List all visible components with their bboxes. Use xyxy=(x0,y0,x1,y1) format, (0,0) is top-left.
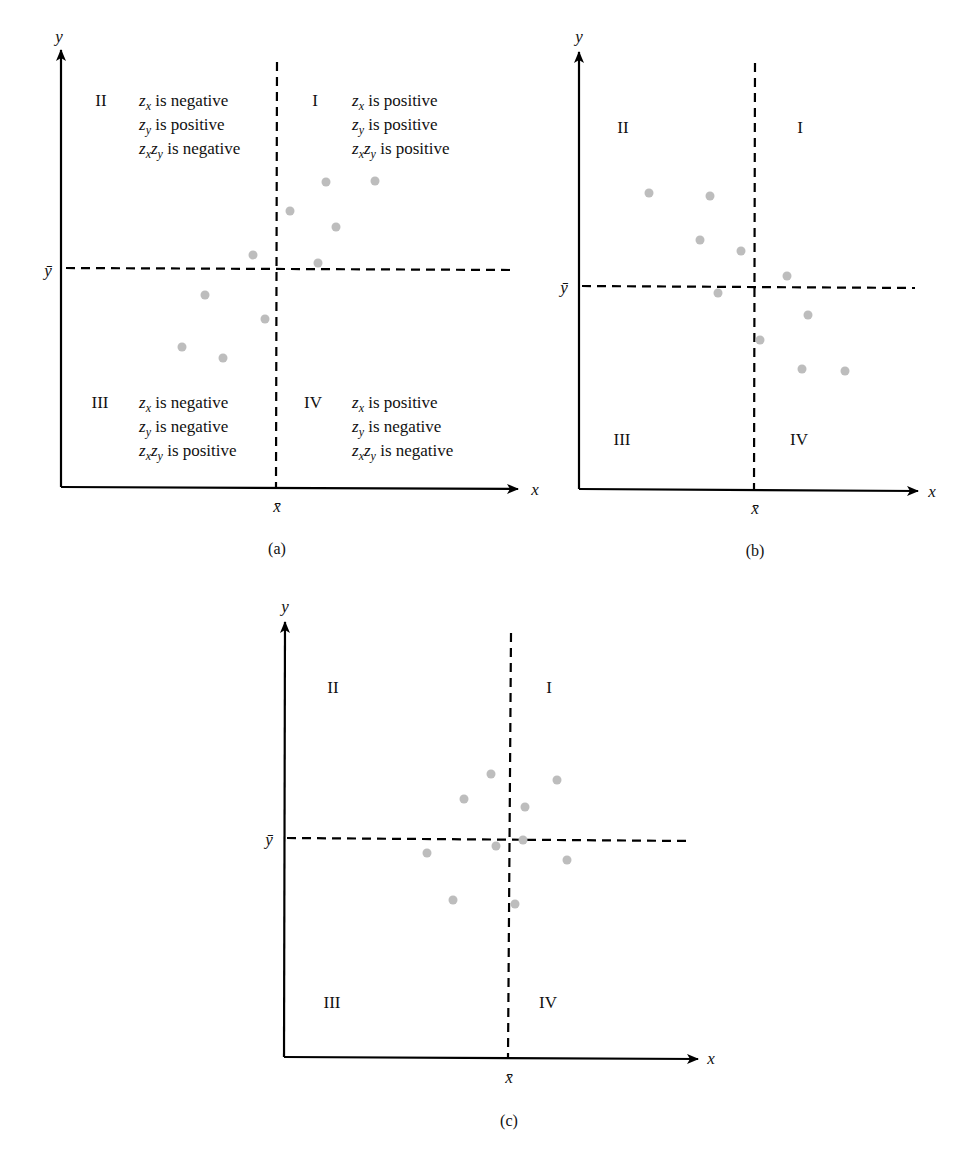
data-point xyxy=(449,896,458,905)
data-points xyxy=(645,189,850,376)
y-mean-line xyxy=(582,286,915,288)
data-point xyxy=(645,189,654,198)
data-point xyxy=(714,289,723,298)
data-point xyxy=(706,192,715,201)
data-point xyxy=(423,849,432,858)
data-point xyxy=(783,272,792,281)
quadrant-I-description: zx is positive zy is positive zxzy is po… xyxy=(351,91,450,161)
data-point xyxy=(322,178,331,187)
data-point xyxy=(201,291,210,300)
x-axis xyxy=(284,1057,698,1059)
quadrant-IV-description: zx is positive zy is negative zxzy is ne… xyxy=(351,393,453,463)
x-axis xyxy=(579,489,918,491)
data-point xyxy=(314,259,323,268)
data-point xyxy=(696,236,705,245)
data-point xyxy=(804,311,813,320)
y-axis xyxy=(284,622,285,1057)
quadrant-label-III: III xyxy=(614,430,631,449)
data-point xyxy=(521,803,530,812)
data-point xyxy=(563,856,572,865)
quadrant-label-III: III xyxy=(324,993,341,1012)
svg-text:zy is negative: zy is negative xyxy=(138,417,228,439)
x-axis-label: x xyxy=(530,480,539,499)
quadrant-label-II: II xyxy=(95,91,107,110)
data-point xyxy=(460,795,469,804)
data-point xyxy=(737,247,746,256)
x-mean-label: x̄ xyxy=(272,497,281,516)
data-point xyxy=(332,223,341,232)
data-point xyxy=(487,770,496,779)
x-axis xyxy=(61,487,518,489)
svg-text:zx is positive: zx is positive xyxy=(351,393,438,415)
quadrant-label-IV: IV xyxy=(304,393,323,412)
x-mean-line xyxy=(276,62,277,487)
svg-text:zy is negative: zy is negative xyxy=(351,417,441,439)
data-point xyxy=(511,900,520,909)
quadrant-label-II: II xyxy=(617,118,629,137)
svg-text:zx is negative: zx is negative xyxy=(138,91,228,113)
data-point xyxy=(492,842,501,851)
quadrant-label-I: I xyxy=(546,678,552,697)
data-point xyxy=(261,315,270,324)
y-mean-line xyxy=(66,268,515,270)
y-axis-label: y xyxy=(279,597,289,616)
quadrant-III-description: zx is negative zy is negative zxzy is po… xyxy=(138,393,237,463)
svg-text:zy is positive: zy is positive xyxy=(138,115,225,137)
y-mean-label: ȳ xyxy=(558,278,568,297)
data-point xyxy=(178,343,187,352)
quadrant-label-IV: IV xyxy=(539,993,558,1012)
panel-a: y x x̄ ȳ (a) II I III IV zx is negative … xyxy=(42,27,539,558)
quadrant-label-III: III xyxy=(92,393,109,412)
quadrant-II-description: zx is negative zy is positive zxzy is ne… xyxy=(138,91,240,161)
panel-c: y x x̄ ȳ (c) II I III IV xyxy=(263,597,715,1130)
data-point xyxy=(286,207,295,216)
scatter-quadrant-figure: y x x̄ ȳ (a) II I III IV zx is negative … xyxy=(0,0,967,1160)
y-axis-label: y xyxy=(53,27,63,46)
quadrant-label-I: I xyxy=(797,118,803,137)
svg-text:zx is negative: zx is negative xyxy=(138,393,228,415)
y-mean-label: ȳ xyxy=(263,830,273,849)
svg-text:zy is positive: zy is positive xyxy=(351,115,438,137)
caption: (b) xyxy=(746,542,765,560)
x-mean-line xyxy=(508,633,511,1057)
y-mean-label: ȳ xyxy=(42,261,52,280)
quadrant-label-IV: IV xyxy=(790,430,809,449)
svg-text:zxzy is positive: zxzy is positive xyxy=(138,441,237,463)
data-point xyxy=(519,836,528,845)
panel-b: y x x̄ ȳ (b) II I III IV xyxy=(558,27,936,560)
quadrant-label-I: I xyxy=(312,91,318,110)
svg-text:zxzy is positive: zxzy is positive xyxy=(351,139,450,161)
data-point xyxy=(756,336,765,345)
x-axis-label: x xyxy=(706,1049,715,1068)
data-point xyxy=(249,251,258,260)
y-axis-label: y xyxy=(573,27,583,46)
x-axis-label: x xyxy=(927,482,936,501)
x-mean-label: x̄ xyxy=(504,1068,513,1087)
svg-text:zxzy is negative: zxzy is negative xyxy=(138,139,240,161)
data-point xyxy=(798,365,807,374)
y-mean-line xyxy=(287,838,692,841)
svg-text:zx is positive: zx is positive xyxy=(351,91,438,113)
caption: (c) xyxy=(500,1112,518,1130)
x-mean-line xyxy=(754,63,755,489)
svg-text:zxzy is negative: zxzy is negative xyxy=(351,441,453,463)
quadrant-label-II: II xyxy=(327,678,339,697)
data-point xyxy=(219,354,228,363)
data-point xyxy=(841,367,850,376)
x-mean-label: x̄ xyxy=(750,499,759,518)
data-point xyxy=(371,177,380,186)
caption: (a) xyxy=(268,540,286,558)
data-point xyxy=(553,776,562,785)
